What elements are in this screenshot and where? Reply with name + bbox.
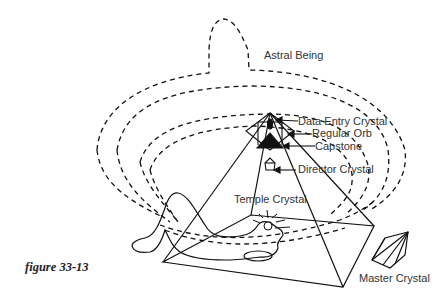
data-entry-crystal-label: Data Entry Crystal (298, 116, 387, 127)
temple-crystal-label: Temple Crystal (234, 194, 307, 205)
master-crystal (372, 232, 408, 268)
diagram-figure: Astral Being Data Entry Crystal Regular … (0, 0, 447, 303)
capstone-assembly (246, 113, 294, 170)
director-crystal-label: Director Crystal (298, 164, 374, 175)
master-crystal-label: Master Crystal (359, 273, 430, 284)
capstone-label: Capstone (315, 141, 362, 152)
astral-being-label: Astral Being (264, 50, 323, 61)
temple-crystal-radiance (253, 210, 290, 230)
diagram-drawing (0, 0, 447, 303)
figure-caption: figure 33-13 (25, 260, 89, 275)
regular-orb-label: Regular Orb (312, 128, 372, 139)
